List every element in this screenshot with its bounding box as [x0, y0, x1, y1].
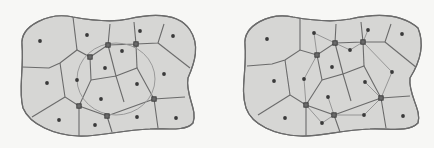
vertex-marker: [379, 96, 383, 100]
vertex-marker: [332, 113, 336, 117]
site-dot: [162, 72, 166, 76]
site-dot: [283, 116, 287, 120]
site-dot: [38, 39, 42, 43]
site-dot: [135, 82, 139, 86]
site-dot: [85, 33, 89, 37]
site-dot: [366, 28, 370, 32]
site-dot: [348, 48, 352, 52]
site-dot: [120, 49, 124, 53]
site-dot: [93, 123, 97, 127]
vertex-marker: [77, 104, 81, 108]
site-dot: [272, 79, 276, 83]
diagram-canvas: [0, 0, 434, 148]
site-dot: [312, 31, 316, 35]
site-dot: [57, 118, 61, 122]
site-dot: [320, 121, 324, 125]
vertex-marker: [152, 97, 156, 101]
site-dot: [135, 115, 139, 119]
vertex-marker: [315, 53, 319, 57]
voronoi-panel-left: [21, 16, 196, 137]
site-dot: [138, 29, 142, 33]
site-dot: [99, 97, 103, 101]
site-dot: [326, 95, 330, 99]
vertex-marker: [333, 41, 337, 45]
vertex-marker: [134, 42, 138, 46]
site-dot: [45, 81, 49, 85]
voronoi-panel-right: [244, 15, 422, 136]
region-outline: [244, 15, 422, 136]
site-dot: [174, 116, 178, 120]
vertex-marker: [105, 114, 109, 118]
vertex-marker: [106, 43, 110, 47]
site-dot: [265, 37, 269, 41]
site-dot: [401, 114, 405, 118]
vertex-marker: [361, 40, 365, 44]
site-dot: [363, 80, 367, 84]
site-dot: [330, 65, 334, 69]
site-dot: [75, 78, 79, 82]
site-dot: [390, 70, 394, 74]
site-dot: [400, 32, 404, 36]
site-dot: [302, 77, 306, 81]
site-dot: [362, 113, 366, 117]
site-dot: [103, 66, 107, 70]
vertex-marker: [304, 103, 308, 107]
site-dot: [171, 34, 175, 38]
vertex-marker: [88, 55, 92, 59]
